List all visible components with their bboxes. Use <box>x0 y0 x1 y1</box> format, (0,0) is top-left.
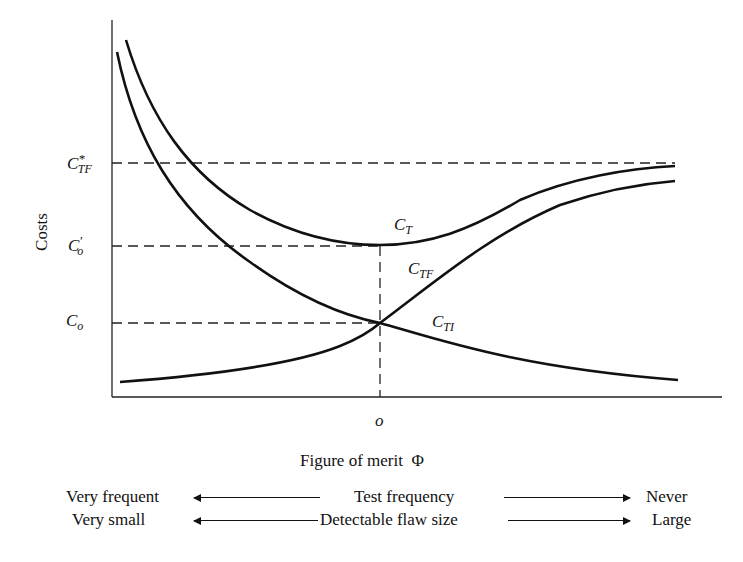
x-axis-label: Figure of merit Φ <box>300 451 424 471</box>
scale-center-1: Test frequency <box>354 487 454 507</box>
arrow-left-icon <box>194 497 320 498</box>
y-tick-co: Co <box>66 312 83 332</box>
curve-ctf <box>120 181 675 382</box>
y-axis-label: Costs <box>32 202 52 262</box>
curve-label-cti: CTI <box>432 313 454 333</box>
scale-left-2: Very small <box>72 510 145 530</box>
curve-label-ct: CT <box>394 216 412 236</box>
scale-center-2: Detectable flaw size <box>320 510 458 530</box>
y-tick-co-prime: C′o <box>68 234 83 257</box>
phi-symbol: Φ <box>411 451 423 470</box>
x-tick-o: o <box>375 412 384 429</box>
cost-plot <box>0 0 743 562</box>
arrow-right-icon <box>508 520 630 521</box>
scale-right-1: Never <box>646 487 688 507</box>
y-tick-ctf-star: C*TF <box>67 152 92 175</box>
curve-label-ctf: CTF <box>408 260 433 280</box>
scale-right-2: Large <box>652 510 691 530</box>
arrow-left-icon <box>194 520 318 521</box>
scale-left-1: Very frequent <box>66 487 159 507</box>
arrow-right-icon <box>504 497 630 498</box>
